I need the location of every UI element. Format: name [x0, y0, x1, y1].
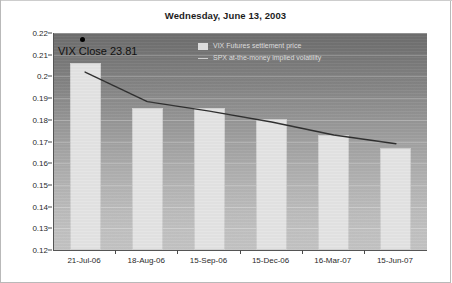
y-axis-tick-label: 0.12: [14, 246, 48, 255]
x-axis-tick-label: 21-Jul-06: [67, 256, 100, 265]
y-axis-tick-mark: [48, 228, 52, 229]
legend-bar-swatch-icon: [198, 43, 208, 50]
chart-title: Wednesday, June 13, 2003: [0, 10, 451, 21]
x-axis-tick-mark: [364, 250, 365, 254]
x-axis-tick-mark: [177, 250, 178, 254]
x-axis-tick-mark: [302, 250, 303, 254]
x-axis-tick-label: 16-Mar-07: [314, 256, 351, 265]
y-axis-tick-label: 0.22: [14, 29, 48, 38]
x-axis-tick-mark: [115, 250, 116, 254]
y-axis-tick-mark: [48, 184, 52, 185]
y-axis-tick-mark: [48, 250, 52, 251]
x-axis-tick-label: 15-Sep-06: [190, 256, 227, 265]
legend-item-spx-implied-vol: SPX at-the-money implied volatility: [198, 52, 321, 64]
vix-close-annotation: VIX Close 23.81: [58, 45, 138, 57]
y-axis-tick-mark: [48, 206, 52, 207]
legend-item-vix-futures: VIX Futures settlement price: [198, 40, 321, 52]
spx-implied-vol-line: [85, 72, 396, 144]
chart-legend: VIX Futures settlement price SPX at-the-…: [198, 40, 321, 64]
legend-label-vix-futures: VIX Futures settlement price: [213, 40, 301, 52]
y-axis-tick-label: 0.19: [14, 94, 48, 103]
y-axis-tick-mark: [48, 76, 52, 77]
y-axis: 0.220.210.20.190.180.170.160.150.140.130…: [12, 0, 48, 283]
y-axis-tick-label: 0.2: [14, 72, 48, 81]
y-axis-tick-mark: [48, 141, 52, 142]
page-top-rule: [1, 0, 452, 1]
y-axis-tick-label: 0.18: [14, 115, 48, 124]
y-axis-tick-mark: [48, 33, 52, 34]
y-axis-tick-label: 0.15: [14, 180, 48, 189]
x-axis-tick-label: 15-Dec-06: [252, 256, 289, 265]
y-axis-tick-mark: [48, 54, 52, 55]
y-axis-tick-label: 0.17: [14, 137, 48, 146]
y-axis-tick-label: 0.13: [14, 224, 48, 233]
legend-line-swatch-icon: [198, 55, 208, 62]
y-axis-tick-label: 0.16: [14, 159, 48, 168]
vix-close-marker-dot: [80, 37, 85, 42]
y-axis-tick-mark: [48, 163, 52, 164]
y-axis-tick-mark: [48, 119, 52, 120]
y-axis-tick-label: 0.21: [14, 50, 48, 59]
x-axis-tick-label: 15-Jun-07: [377, 256, 413, 265]
y-axis-tick-mark: [48, 98, 52, 99]
x-axis-tick-mark: [240, 250, 241, 254]
legend-label-spx-implied-vol: SPX at-the-money implied volatility: [213, 52, 321, 64]
line-series: [54, 33, 427, 250]
x-axis-tick-label: 18-Aug-06: [128, 256, 165, 265]
plot-area: VIX Close 23.81 VIX Futures settlement p…: [53, 33, 427, 251]
y-axis-tick-label: 0.14: [14, 202, 48, 211]
